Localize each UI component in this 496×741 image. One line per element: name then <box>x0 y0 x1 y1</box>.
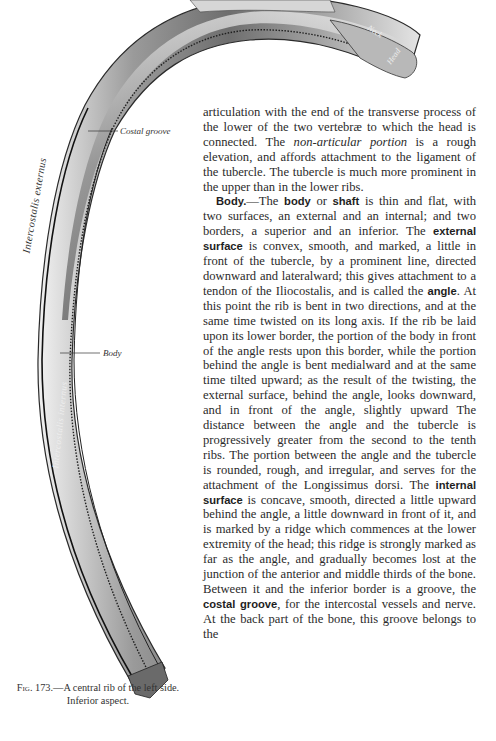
caption-line-1: Fig. 173.—A central rib of the left side… <box>0 681 196 694</box>
bold-term-angle: angle <box>427 285 456 297</box>
figure-caption: Fig. 173.—A central rib of the left side… <box>0 681 196 707</box>
text-run: or <box>311 194 333 208</box>
section-heading-body: Body. <box>216 195 246 207</box>
costal-groove-label: Costal groove <box>120 126 170 136</box>
text-run: . At this point the rib is bent in two d… <box>203 284 476 492</box>
caption-line-1-text: 173.—A central rib of the left side. <box>35 682 179 693</box>
text-run: —The <box>246 194 284 208</box>
bold-term-body: body <box>284 195 311 207</box>
body-label: Body <box>103 348 122 358</box>
italic-term-non-articular-portion: non-articular portion <box>294 135 407 149</box>
caption-line-2: Inferior aspect. <box>0 694 196 707</box>
caption-fig-prefix: Fig. <box>17 682 33 693</box>
body-text-column: articulation with the end of the transve… <box>203 105 476 642</box>
text-run: is concave, smooth, directed a little up… <box>203 493 476 596</box>
bold-term-costal-groove: costal groove <box>203 598 277 610</box>
bold-term-shaft: shaft <box>333 195 360 207</box>
paragraph-articulation: articulation with the end of the transve… <box>203 105 476 194</box>
paragraph-body: Body.—The body or shaft is thin and flat… <box>203 194 476 641</box>
